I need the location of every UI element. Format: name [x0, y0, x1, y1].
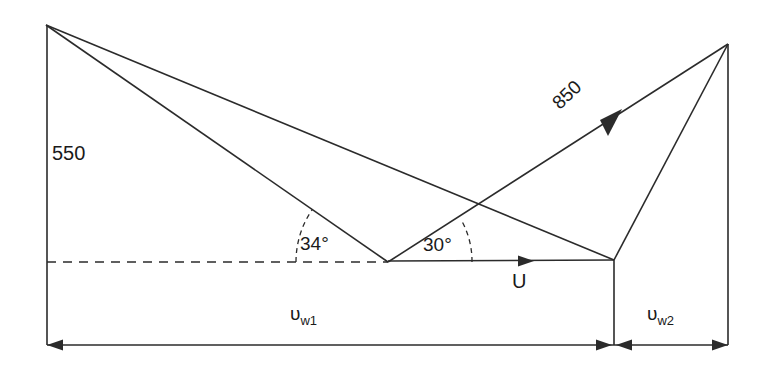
blade-speed-arrowhead [518, 256, 534, 267]
inlet-absolute-velocity-line [46, 25, 614, 260]
outlet-angle-label: 30° [423, 234, 452, 256]
blade-speed-label: U [512, 270, 526, 293]
diagram-canvas [0, 0, 771, 387]
dimension-arrowhead-vw1-left [47, 340, 63, 351]
outlet-velocity-vector-line [388, 44, 728, 262]
whirl-velocity-1-subscript: w1 [300, 313, 317, 328]
whirl-velocity-2-subscript: w2 [657, 313, 674, 328]
whirl-velocity-2-label: υw2 [647, 303, 674, 328]
blade-speed-baseline [388, 260, 614, 261]
inlet-velocity-label: 550 [52, 142, 85, 165]
angle-arc-30 [461, 219, 472, 262]
whirl-velocity-1-symbol: υ [290, 303, 300, 324]
inlet-angle-label: 34° [300, 233, 329, 255]
outlet-relative-velocity-line [614, 44, 728, 260]
velocity-triangle-diagram: 550 850 34° 30° U υw1 υw2 [0, 0, 771, 387]
dimension-arrowhead-vw1-right [596, 340, 612, 351]
dimension-arrowhead-vw2-right [712, 340, 728, 351]
whirl-velocity-1-label: υw1 [290, 303, 317, 328]
inlet-relative-velocity-line [46, 25, 388, 262]
whirl-velocity-2-symbol: υ [647, 303, 657, 324]
dimension-arrowhead-vw2-left [616, 340, 632, 351]
outlet-velocity-arrowhead [600, 109, 622, 136]
